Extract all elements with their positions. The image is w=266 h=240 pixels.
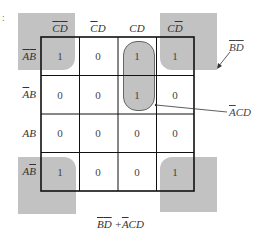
simplified-expression: BD +ACD	[97, 218, 144, 230]
column-label-cbar-d: CD	[79, 22, 117, 34]
cell-r1-c2: 1	[118, 76, 156, 114]
column-label-c-dbar: CD	[156, 22, 194, 34]
cell-r1-c0: 0	[41, 76, 79, 114]
column-label-cbar-dbar: CD	[41, 22, 79, 34]
cell-r1-c1: 0	[79, 76, 117, 114]
cell-r2-c2: 0	[118, 114, 156, 152]
cell-r0-c1: 0	[79, 37, 117, 75]
row-label-abar-bbar: AB	[14, 50, 36, 62]
cell-r3-c0: 1	[41, 153, 79, 191]
row-label-a-b: AB	[14, 127, 36, 139]
row-label-abar-b: AB	[14, 88, 36, 100]
cell-r2-c3: 0	[156, 114, 194, 152]
column-label-c-d: CD	[118, 22, 156, 34]
cell-r2-c1: 0	[79, 114, 117, 152]
annotation-abar-c-d: ACD	[229, 106, 251, 118]
annotation-bbar-dbar: BD	[229, 41, 244, 53]
cell-r0-c2: 1	[118, 37, 156, 75]
cell-r1-c3: 0	[156, 76, 194, 114]
cell-r3-c1: 0	[79, 153, 117, 191]
cell-r3-c3: 1	[156, 153, 194, 191]
cell-r0-c0: 1	[41, 37, 79, 75]
cell-r2-c0: 0	[41, 114, 79, 152]
cell-r3-c2: 0	[118, 153, 156, 191]
cell-r0-c3: 1	[156, 37, 194, 75]
row-label-a-bbar: AB	[14, 165, 36, 177]
